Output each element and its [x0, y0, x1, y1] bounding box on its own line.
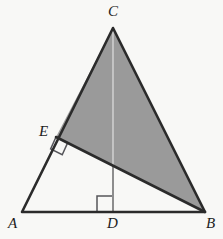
vertex-label-B: B	[206, 216, 215, 231]
geometry-canvas	[0, 0, 223, 239]
right-angle-mark-at-D	[97, 196, 112, 212]
shaded-region-triangle-ECB	[56, 28, 205, 212]
vertex-label-C: C	[108, 4, 118, 19]
vertex-label-A: A	[8, 216, 17, 231]
vertex-label-E: E	[39, 124, 48, 139]
geometry-figure: A B C D E	[0, 0, 223, 239]
vertex-label-D: D	[107, 216, 118, 231]
